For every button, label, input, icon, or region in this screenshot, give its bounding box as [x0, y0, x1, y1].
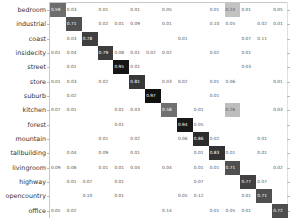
- matrix-cell: 0.11: [256, 32, 272, 46]
- matrix-cell: 0.07: [50, 103, 66, 117]
- matrix-cell: 0.01: [113, 118, 129, 132]
- matrix-cell: 0.71: [225, 161, 241, 175]
- matrix-cell: 0.01: [66, 175, 82, 189]
- matrix-cell: 0.05: [161, 3, 177, 17]
- matrix-cell: 0.71: [256, 189, 272, 203]
- matrix-cell: 0.03: [66, 32, 82, 46]
- y-tick: [47, 24, 50, 25]
- matrix-cell: 0.01: [193, 103, 209, 117]
- matrix-cell: 0.09: [98, 146, 114, 160]
- matrix-cell: 0.77: [240, 175, 256, 189]
- matrix-cell: 0.07: [240, 32, 256, 46]
- matrix-cell: 0.02: [209, 46, 225, 60]
- matrix-cell: 0.01: [66, 60, 82, 74]
- matrix-cell: 0.01: [113, 17, 129, 31]
- y-tick: [47, 96, 50, 97]
- matrix-cell: 0.01: [240, 189, 256, 203]
- matrix-cell: 0.01: [50, 75, 66, 89]
- row-label: industrial: [0, 17, 46, 31]
- matrix-cell: 0.14: [161, 204, 177, 218]
- y-tick: [47, 139, 50, 140]
- matrix-cell: 0.01: [98, 161, 114, 175]
- row-label: opencountry: [0, 189, 46, 203]
- matrix-cell: 0.24: [225, 3, 241, 17]
- right-tick: [287, 67, 290, 68]
- row-label: office: [0, 204, 46, 218]
- matrix-cell: 0.78: [82, 32, 98, 46]
- matrix-cell: 0.97: [145, 89, 161, 103]
- matrix-cell: 0.79: [98, 46, 114, 60]
- matrix-cell: 0.05: [225, 17, 241, 31]
- matrix-cell: 0.06: [66, 161, 82, 175]
- row-label: insidecity: [0, 46, 46, 60]
- matrix-cell: 0.09: [50, 161, 66, 175]
- matrix-cell: 0.01: [225, 146, 241, 160]
- right-tick: [287, 139, 290, 140]
- matrix-cell: 0.01: [50, 46, 66, 60]
- matrix-cell: 0.71: [66, 17, 82, 31]
- matrix-cell: 0.01: [66, 103, 82, 117]
- matrix-cell: 0.05: [193, 118, 209, 132]
- matrix-cell: 0.59: [50, 3, 66, 17]
- matrix-cell: 0.05: [50, 204, 66, 218]
- row-label: tallbuilding: [0, 146, 46, 160]
- matrix-cell: 0.05: [272, 3, 288, 17]
- matrix-cell: 0.04: [66, 146, 82, 160]
- matrix-cell: 0.02: [272, 161, 288, 175]
- matrix-cell: 0.81: [129, 75, 145, 89]
- matrix-cell: 0.01: [98, 132, 114, 146]
- matrix-cell: 0.01: [193, 161, 209, 175]
- matrix-cell: 0.01: [209, 3, 225, 17]
- matrix-cell: 0.08: [113, 46, 129, 60]
- matrix-cell: 0.05: [225, 204, 241, 218]
- matrix-cell: 0.86: [193, 132, 209, 146]
- matrix-cell: 0.07: [82, 175, 98, 189]
- y-tick: [47, 196, 50, 197]
- y-tick: [47, 153, 50, 154]
- matrix-cell: 0.58: [161, 103, 177, 117]
- matrix-cell: 0.02: [98, 17, 114, 31]
- matrix-cell: 0.01: [129, 46, 145, 60]
- matrix-cell: 0.03: [129, 103, 145, 117]
- matrix-cell: 0.01: [240, 204, 256, 218]
- row-label: highway: [0, 175, 46, 189]
- matrix-cell: 0.83: [209, 146, 225, 160]
- matrix-cell: 0.03: [161, 75, 177, 89]
- matrix-cell: 0.26: [225, 103, 241, 117]
- matrix-cell: 0.01: [209, 161, 225, 175]
- row-label: livingroom: [0, 161, 46, 175]
- matrix-cell: 0.07: [193, 175, 209, 189]
- right-tick: [287, 39, 290, 40]
- y-tick: [47, 67, 50, 68]
- matrix-cell: 0.10: [82, 189, 98, 203]
- matrix-cell: 0.03: [272, 103, 288, 117]
- matrix-cell: 0.94: [177, 118, 193, 132]
- y-tick: [47, 39, 50, 40]
- row-label: store: [0, 75, 46, 89]
- row-label: coast: [0, 32, 46, 46]
- matrix-cell: 0.07: [256, 175, 272, 189]
- matrix-cell: 0.04: [161, 161, 177, 175]
- right-tick: [287, 96, 290, 97]
- matrix-cell: 0.01: [129, 60, 145, 74]
- y-tick: [47, 125, 50, 126]
- row-label: bedroom: [0, 3, 46, 17]
- row-label: kitchen: [0, 103, 46, 117]
- matrix-cell: 0.03: [66, 75, 82, 89]
- matrix-cell: 0.01: [113, 189, 129, 203]
- matrix-cell: 0.01: [209, 204, 225, 218]
- matrix-cell: 0.04: [66, 46, 82, 60]
- matrix-cell: 0.01: [129, 3, 145, 17]
- matrix-cell: 0.02: [129, 132, 145, 146]
- right-tick: [287, 182, 290, 183]
- matrix-cell: 0.01: [177, 32, 193, 46]
- row-label: forest: [0, 118, 46, 132]
- matrix-cell: 0.10: [209, 17, 225, 31]
- matrix-cell: 0.02: [177, 75, 193, 89]
- matrix-cell: 0.01: [256, 132, 272, 146]
- matrix-cell: 0.02: [256, 17, 272, 31]
- matrix-cell: 0.01: [113, 103, 129, 117]
- matrix-cell: 0.01: [272, 17, 288, 31]
- matrix-cell: 0.12: [193, 189, 209, 203]
- matrix-cell: 0.03: [66, 3, 82, 17]
